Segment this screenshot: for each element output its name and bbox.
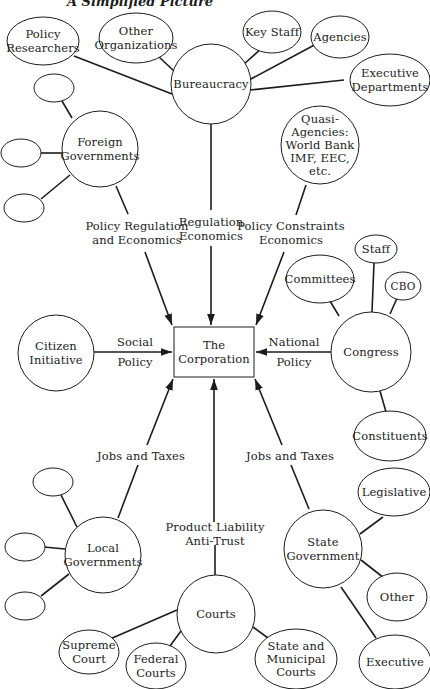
edge-label-national: National — [269, 335, 320, 349]
edge-label-social: Social — [117, 335, 153, 349]
label-state-municipal-courts: State and Municipal Courts — [266, 640, 325, 679]
label-cbo: CBO — [391, 279, 416, 293]
label-state-government: State Government — [286, 535, 359, 563]
node-foreign-small-bot — [4, 194, 44, 222]
node-local-small-top — [33, 468, 73, 496]
label-executive: Executive — [366, 655, 424, 669]
edge-constituents — [380, 391, 386, 412]
arrow-foreign-governments — [145, 252, 172, 325]
edge-legislative — [360, 517, 383, 534]
edge-other — [361, 560, 384, 578]
edge-executive-departments — [250, 80, 344, 90]
label-other: Other — [380, 590, 414, 604]
label-congress: Congress — [343, 345, 398, 359]
edge-label-national-policy: Policy — [276, 355, 311, 369]
edge-label-courts: Product Liability Anti-Trust — [165, 520, 264, 548]
arrow-local-governments — [147, 379, 173, 445]
edge-state-municipal-courts — [253, 627, 268, 638]
edge-local-lower — [118, 465, 138, 518]
edge-label-state-government: Jobs and Taxes — [246, 449, 334, 463]
label-local-governments: Local Governments — [63, 541, 142, 569]
edge-local-small-mid — [44, 547, 65, 549]
label-supreme-court: Supreme Court — [62, 638, 115, 666]
label-key-staff: Key Staff — [245, 25, 299, 39]
arrow-quasi-agencies — [256, 252, 284, 325]
node-foreign-small-top — [34, 74, 74, 102]
edge-foreign-upper — [116, 186, 128, 214]
edge-label-foreign-governments: Policy Regulation and Economics — [85, 219, 188, 247]
edge-state-lower — [291, 465, 309, 509]
edge-other-organizations — [159, 57, 174, 71]
edge-supreme-court — [110, 610, 177, 639]
label-committees: Committees — [285, 272, 356, 286]
node-foreign-small-mid — [1, 139, 41, 167]
label-agencies: Agencies — [313, 30, 367, 44]
label-other-organizations: Other Organizations — [95, 24, 178, 52]
edge-quasi-upper — [296, 185, 306, 215]
edge-local-small-top — [61, 495, 77, 527]
corporation-label: The Corporation — [178, 338, 250, 366]
label-executive-departments: Executive Departments — [351, 66, 428, 94]
node-local-small-mid — [5, 533, 45, 561]
edge-local-small-bot — [41, 574, 69, 596]
label-constituents: Constituents — [352, 429, 427, 443]
label-bureaucracy: Bureaucracy — [173, 77, 248, 91]
stakeholder-diagram: A Simplified Picture — [0, 0, 430, 689]
edge-label-local-governments: Jobs and Taxes — [97, 449, 185, 463]
arrow-state-government — [255, 379, 282, 445]
edge-label-quasi-agencies: Policy Constraints Economics — [237, 219, 345, 247]
node-local-small-bot — [5, 592, 45, 620]
edge-federal-courts — [170, 631, 181, 646]
label-foreign-governments: Foreign Governments — [60, 135, 139, 163]
label-citizen-initiative: Citizen Initiative — [29, 339, 82, 367]
label-quasi-agencies: Quasi- Agencies: World Bank IMF, EEC, et… — [286, 113, 355, 178]
label-courts: Courts — [196, 607, 236, 621]
label-federal-courts: Federal Courts — [133, 652, 178, 680]
edge-staff — [372, 263, 374, 312]
label-policy-researchers: Policy Researchers — [6, 27, 80, 55]
label-staff: Staff — [362, 242, 390, 256]
label-legislative: Legislative — [362, 485, 427, 499]
edge-foreign-small-bot — [41, 175, 70, 199]
edge-committees — [330, 301, 339, 316]
edge-label-social-policy: Policy — [117, 355, 152, 369]
edge-foreign-small-top — [62, 101, 72, 118]
